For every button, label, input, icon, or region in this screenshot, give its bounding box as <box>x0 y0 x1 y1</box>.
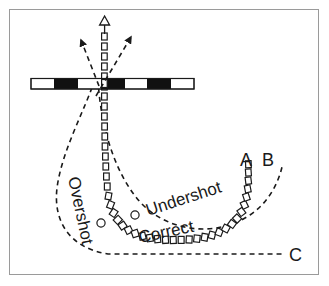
fixation-circle-left <box>97 219 105 227</box>
figure-container: Overshot Undershot Correct A B C <box>0 0 329 286</box>
label-overshot: Overshot <box>64 175 97 247</box>
label-overshot-text: Overshot <box>64 175 97 247</box>
diagram-canvas: Overshot Undershot Correct A B C <box>0 0 329 286</box>
label-undershot-text: Undershot <box>143 177 224 219</box>
label-trace-b: B <box>262 150 274 170</box>
label-trace-c: C <box>289 245 302 265</box>
trace-a-square-markers <box>102 33 252 244</box>
label-undershot: Undershot <box>143 177 224 219</box>
hollow-up-arrow <box>100 16 110 34</box>
fixation-circle-right <box>131 211 139 219</box>
segmented-stimulus-bar <box>31 79 194 90</box>
label-trace-a: A <box>240 150 252 170</box>
